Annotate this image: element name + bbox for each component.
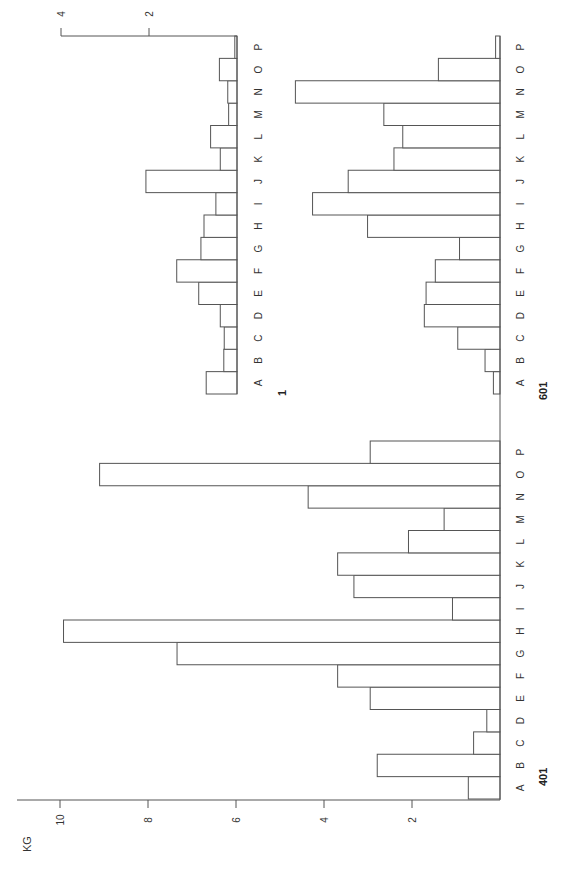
category-label: G xyxy=(253,244,264,252)
category-label: A xyxy=(253,379,264,386)
category-label: H xyxy=(515,628,526,635)
category-label: B xyxy=(253,357,264,364)
category-label: K xyxy=(253,155,264,162)
category-label: I xyxy=(515,202,526,205)
bar-601-I xyxy=(313,193,500,215)
category-label: I xyxy=(253,202,264,205)
bar-401-L xyxy=(408,531,500,553)
bar-401-H xyxy=(64,620,500,642)
bar-601-M xyxy=(384,103,500,125)
category-label: N xyxy=(515,88,526,95)
bar-601-N xyxy=(295,81,500,103)
category-label: E xyxy=(515,695,526,702)
category-label: G xyxy=(515,244,526,252)
category-label: J xyxy=(515,584,526,589)
bar-1-O xyxy=(219,58,237,80)
tick-label: 10 xyxy=(55,814,66,826)
category-label: P xyxy=(515,449,526,456)
bar-1-F xyxy=(177,260,237,282)
bar-1-M xyxy=(229,103,237,125)
bar-401-N xyxy=(308,486,500,508)
bar-1-B xyxy=(224,349,237,371)
category-label: E xyxy=(515,290,526,297)
category-label: D xyxy=(515,717,526,724)
bar-601-H xyxy=(368,215,500,237)
category-label: P xyxy=(515,44,526,51)
category-label: E xyxy=(253,290,264,297)
panel-title-401: 401 xyxy=(537,768,549,786)
tick-label: 4 xyxy=(319,817,330,823)
category-label: L xyxy=(253,133,264,139)
category-label: F xyxy=(253,268,264,274)
category-label: C xyxy=(515,739,526,746)
tick-label: 4 xyxy=(56,11,67,17)
category-label: L xyxy=(515,538,526,544)
bar-601-O xyxy=(438,58,500,80)
category-label: N xyxy=(515,493,526,500)
tick-label: 2 xyxy=(407,817,418,823)
category-label: G xyxy=(515,649,526,657)
category-label: I xyxy=(515,607,526,610)
bar-401-K xyxy=(338,553,500,575)
category-label: P xyxy=(253,44,264,51)
category-label: J xyxy=(253,179,264,184)
bar-601-L xyxy=(403,126,500,148)
bar-601-P xyxy=(496,36,500,58)
category-label: N xyxy=(253,88,264,95)
bar-1-A xyxy=(206,372,237,394)
category-label: M xyxy=(253,110,264,118)
category-label: O xyxy=(253,65,264,73)
bar-1-N xyxy=(228,81,237,103)
category-label: C xyxy=(253,334,264,341)
bar-401-O xyxy=(100,463,500,485)
bar-601-E xyxy=(426,282,500,304)
bar-401-B xyxy=(377,754,500,776)
category-label: A xyxy=(515,784,526,791)
bar-401-G xyxy=(177,642,500,664)
panel-title-601: 601 xyxy=(537,382,549,400)
category-label: H xyxy=(515,223,526,230)
bar-1-J xyxy=(146,170,237,192)
category-label: B xyxy=(515,762,526,769)
bar-601-F xyxy=(435,260,500,282)
category-label: J xyxy=(515,179,526,184)
category-label: H xyxy=(253,223,264,230)
category-label: K xyxy=(515,560,526,567)
bar-401-I xyxy=(452,598,500,620)
category-label: D xyxy=(515,312,526,319)
bar-401-A xyxy=(468,777,500,799)
bar-601-K xyxy=(394,148,500,170)
category-label: M xyxy=(515,515,526,523)
bar-1-H xyxy=(204,215,237,237)
category-label: F xyxy=(515,673,526,679)
bar-1-C xyxy=(224,327,237,349)
tick-label: 8 xyxy=(143,817,154,823)
bar-1-K xyxy=(220,148,237,170)
bar-601-J xyxy=(348,170,500,192)
category-label: B xyxy=(515,357,526,364)
bar-401-D xyxy=(487,710,500,732)
chart-canvas: ABCDEFGHIJKLMNOP ABCDEFGHIJKLMNOP ABCDEF… xyxy=(0,0,562,896)
category-label: C xyxy=(515,334,526,341)
category-label: F xyxy=(515,268,526,274)
category-label: L xyxy=(515,133,526,139)
panel-601: ABCDEFGHIJKLMNOP xyxy=(295,36,526,394)
category-label: O xyxy=(515,470,526,478)
category-label: K xyxy=(515,155,526,162)
category-label: O xyxy=(515,65,526,73)
bar-401-E xyxy=(370,687,500,709)
category-label: M xyxy=(515,110,526,118)
panel-1: ABCDEFGHIJKLMNOP xyxy=(146,36,264,394)
bar-401-M xyxy=(444,508,500,530)
category-label: D xyxy=(253,312,264,319)
bar-1-L xyxy=(211,126,237,148)
tick-label: 6 xyxy=(231,817,242,823)
bar-601-A xyxy=(493,372,500,394)
bar-401-F xyxy=(338,665,500,687)
bar-1-G xyxy=(201,237,237,259)
tick-label: 2 xyxy=(144,11,155,17)
category-label: A xyxy=(515,379,526,386)
y-axis-label: KG xyxy=(21,836,33,852)
bar-601-G xyxy=(460,237,500,259)
bar-1-E xyxy=(199,282,237,304)
